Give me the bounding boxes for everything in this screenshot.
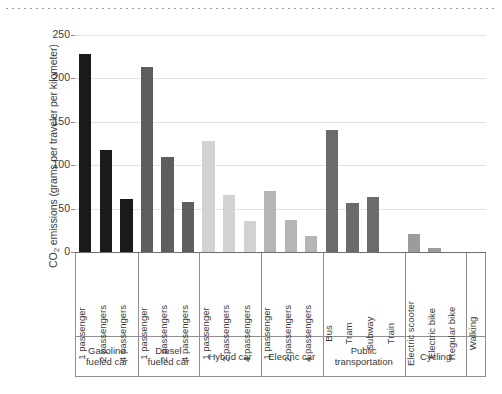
y-axis-tick-labels: 050100150200250 (30, 0, 70, 394)
group-label-cell: Hybrid car (199, 337, 261, 377)
category-label-cell: 4 passengers (117, 253, 138, 337)
gridline (75, 35, 486, 36)
category-label-cell: Electric scooter (405, 253, 426, 337)
group-label: Electric car (268, 352, 315, 363)
bar (264, 191, 276, 252)
group-separator (138, 253, 139, 337)
category-label-cell: 4 passengers (302, 253, 323, 337)
group-separator (261, 253, 262, 337)
plot-area (75, 35, 486, 252)
group-label: Publictransportation (335, 346, 393, 368)
category-label-cell: 1 passenger (138, 253, 159, 337)
bar (141, 67, 153, 252)
gridline (75, 209, 486, 210)
group-separator (323, 253, 324, 337)
gridline (75, 122, 486, 123)
group-label: Dieselfueled car (148, 346, 190, 368)
group-separator (466, 253, 467, 337)
y-tick-label: 250 (30, 28, 70, 40)
category-label-cell: Electric bike (425, 253, 446, 337)
bar (100, 150, 112, 252)
category-label-cell: Bus (323, 253, 344, 337)
category-label-cell: 4 passengers (179, 253, 200, 337)
bar (408, 234, 420, 252)
category-label-cell: Train (384, 253, 405, 337)
group-separator (405, 253, 406, 337)
y-tick-label: 100 (30, 158, 70, 170)
group-label-cell: Dieselfueled car (138, 337, 200, 377)
co2-emissions-bar-chart: CO2 emissions (grams per traveler per ki… (0, 0, 502, 394)
category-label-cell: Subway (364, 253, 385, 337)
y-tick-label: 0 (30, 245, 70, 257)
y-tick-label: 150 (30, 115, 70, 127)
bar (305, 236, 317, 252)
group-label: Gasolinefueled car (86, 346, 128, 368)
category-label-cell: 1 passenger (261, 253, 282, 337)
group-label-cell: Cycling (405, 337, 467, 377)
category-label-cell: 2 passengers (282, 253, 303, 337)
gridline (75, 78, 486, 79)
bar (326, 130, 338, 252)
group-label-row: Gasolinefueled carDieselfueled carHybrid… (75, 337, 486, 377)
bar (182, 202, 194, 252)
bar (346, 203, 358, 252)
category-label-cell: Tram (343, 253, 364, 337)
group-label-cell (466, 337, 487, 377)
bar (244, 221, 256, 252)
category-label-cell: 2 passengers (220, 253, 241, 337)
y-tick-label: 200 (30, 71, 70, 83)
category-label-cell: Regular bike (446, 253, 467, 337)
group-label-cell: Electric car (261, 337, 323, 377)
bar (120, 199, 132, 252)
bar (202, 141, 214, 252)
category-label-cell: 2 passengers (158, 253, 179, 337)
group-label: Hybrid car (208, 352, 251, 363)
bar (79, 54, 91, 252)
group-label-cell: Gasolinefueled car (76, 337, 138, 377)
category-label-cell: 1 passenger (199, 253, 220, 337)
category-label-cell: 2 passengers (97, 253, 118, 337)
group-label-cell: Publictransportation (323, 337, 405, 377)
bar (161, 157, 173, 252)
group-label: Cycling (420, 352, 451, 363)
bar (285, 220, 297, 252)
bar (223, 195, 235, 252)
gridline (75, 165, 486, 166)
y-tick-label: 50 (30, 202, 70, 214)
bar (367, 197, 379, 252)
category-label-cell: 4 passengers (240, 253, 261, 337)
group-separator (199, 253, 200, 337)
category-label-cell: Walking (466, 253, 487, 337)
category-label-row: 1 passenger2 passengers4 passengers1 pas… (75, 253, 486, 337)
category-label-cell: 1 passenger (76, 253, 97, 337)
